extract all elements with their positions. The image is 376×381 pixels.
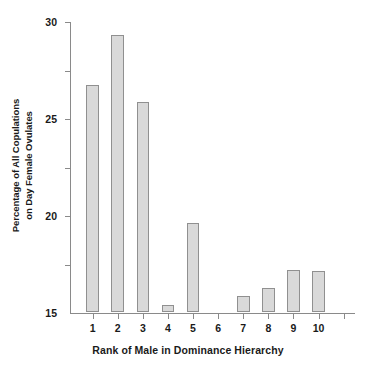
x-tick-mark (293, 314, 294, 319)
x-tick-label: 4 (165, 322, 171, 334)
y-tick-label: 30 (45, 16, 57, 28)
y-axis-title-line-2: on Day Female Ovulates (23, 98, 36, 231)
bar (162, 305, 175, 312)
y-tick-mark: 30 (65, 22, 70, 23)
x-tick-mark (168, 314, 169, 319)
bar (137, 102, 150, 312)
bar-chart-figure: Percentage of All Copulations on Day Fem… (0, 0, 376, 381)
y-axis-line (70, 22, 71, 314)
y-tick-mark: 20 (65, 119, 70, 120)
x-tick-label: 8 (265, 322, 271, 334)
x-tick-label: 5 (190, 322, 196, 334)
x-tick-label: 2 (115, 322, 121, 334)
x-tick-label: 6 (215, 322, 221, 334)
x-tick-label: 3 (140, 322, 146, 334)
bar (287, 270, 300, 312)
y-axis-title: Percentage of All Copulations on Day Fem… (11, 98, 36, 231)
bar (111, 35, 124, 312)
x-tick-label: 7 (240, 322, 246, 334)
x-axis-title: Rank of Male in Dominance Hierarchy (0, 344, 376, 356)
x-tick-mark (118, 314, 119, 319)
bar (187, 223, 200, 312)
x-tick-mark (243, 314, 244, 319)
y-tick-mark: 25 (65, 71, 70, 72)
bar (86, 85, 99, 312)
x-tick-mark (268, 314, 269, 319)
y-tick-label: 25 (45, 113, 57, 125)
x-tick-mark (218, 314, 219, 319)
x-tick-label: 9 (291, 322, 297, 334)
y-tick-label: 20 (45, 210, 57, 222)
x-tick-label: 10 (313, 322, 325, 334)
plot-area: 51015202530 12345678910 (70, 22, 355, 313)
y-axis-title-container: Percentage of All Copulations on Day Fem… (0, 0, 46, 330)
bar (262, 288, 275, 312)
y-tick-mark: 5 (65, 265, 70, 266)
x-tick-mark (93, 314, 94, 319)
x-tick-mark (193, 314, 194, 319)
y-axis-title-line-1: Percentage of All Copulations (11, 98, 22, 231)
x-axis-line (70, 313, 355, 314)
x-tick-label: 1 (90, 322, 96, 334)
y-tick-label: 15 (45, 307, 57, 319)
bar (237, 296, 250, 312)
x-tick-mark-trailing (344, 314, 345, 319)
bar (312, 271, 325, 312)
y-tick-mark: 10 (65, 216, 70, 217)
x-tick-mark (319, 314, 320, 319)
y-tick-mark: 15 (65, 168, 70, 169)
x-tick-mark (143, 314, 144, 319)
